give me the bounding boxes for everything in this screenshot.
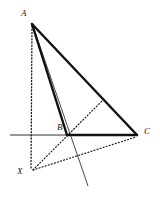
vertex-label-X: X [17, 167, 23, 176]
geometry-figure: A B C X [0, 0, 160, 204]
figure-drawing-surface [0, 0, 160, 204]
vertex-label-C: C [144, 127, 150, 136]
segment-AX-dotted [31, 26, 32, 169]
vertex-label-A: A [21, 9, 27, 18]
segment-AC [32, 24, 137, 135]
segment-XC-dotted [33, 137, 136, 170]
segment-AB [32, 24, 67, 135]
vertex-label-B: B [57, 123, 63, 132]
